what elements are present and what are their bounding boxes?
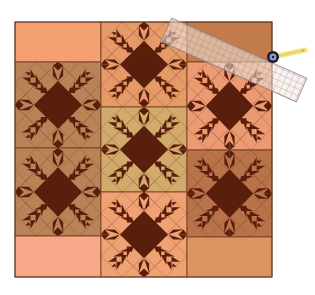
left-rect-0 (15, 22, 101, 62)
quilt-scene (0, 0, 315, 295)
left-block-1 (15, 62, 101, 148)
right-rect-3 (187, 237, 272, 277)
middle-block-1 (101, 107, 187, 192)
right-block-2 (187, 150, 272, 237)
rotary-cutter (267, 50, 305, 63)
left-block-2 (15, 148, 101, 236)
left-rect-3 (15, 236, 101, 277)
middle-block-2 (101, 192, 187, 277)
